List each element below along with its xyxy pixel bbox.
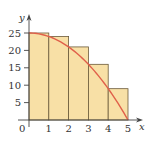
bar-rect	[29, 33, 49, 120]
y-ticks: 510152025	[8, 28, 29, 109]
y-axis-label: y	[18, 12, 25, 23]
x-ticks: 12345	[46, 123, 132, 134]
y-tick-label: 5	[15, 97, 21, 108]
riemann-sum-chart: 510152025 12345 y x 0	[0, 0, 155, 146]
x-tick-label: 3	[85, 123, 91, 134]
x-tick-label: 5	[125, 123, 131, 134]
x-tick-label: 1	[46, 123, 52, 134]
x-tick-label: 4	[105, 123, 111, 134]
bars-group	[29, 33, 128, 120]
bar-rect	[49, 36, 69, 120]
y-tick-label: 25	[8, 28, 21, 39]
origin-label: 0	[19, 123, 25, 134]
y-tick-label: 20	[8, 45, 21, 56]
bar-rect	[69, 47, 89, 120]
bar-rect	[88, 64, 108, 120]
x-tick-label: 2	[65, 123, 71, 134]
y-tick-label: 10	[8, 80, 21, 91]
x-axis-label: x	[139, 121, 145, 132]
y-tick-label: 15	[8, 62, 21, 73]
